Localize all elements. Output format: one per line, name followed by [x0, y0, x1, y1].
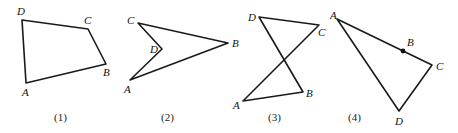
figure-4-label-b: B [407, 36, 414, 48]
figure-1-label-b: B [103, 66, 110, 78]
figure-4-label-c: C [436, 60, 444, 72]
figure-4-triangle [337, 19, 432, 111]
figure-3-label-a: A [232, 99, 240, 111]
figure-1: A B C D (1) [16, 5, 110, 124]
figure-4-caption: (4) [348, 111, 361, 124]
figure-2-label-a: A [123, 83, 131, 95]
figure-2-label-c: C [127, 14, 135, 26]
figure-3-label-b: B [306, 87, 313, 99]
figure-1-label-a: A [21, 86, 29, 98]
quadrilateral-figures-diagram: A B C D (1) A B C D (2) A B C D (3) [0, 0, 458, 133]
figure-3-label-d: D [247, 11, 256, 23]
figure-2: A B C D (2) [123, 14, 239, 124]
figure-4-label-a: A [329, 9, 337, 21]
figure-4-point-b [401, 49, 406, 54]
figure-1-caption: (1) [54, 111, 67, 124]
figure-1-quadrilateral [22, 20, 106, 83]
figure-2-caption: (2) [161, 111, 174, 124]
figures-canvas: A B C D (1) A B C D (2) A B C D (3) [0, 0, 458, 133]
figure-4: A B C D (4) [329, 9, 444, 127]
figure-3-label-c: C [318, 26, 326, 38]
figure-2-dart [130, 23, 228, 80]
figure-1-label-c: C [84, 14, 92, 26]
figure-3-caption: (3) [268, 111, 281, 124]
figure-1-label-d: D [16, 5, 25, 17]
figure-4-label-d: D [394, 115, 403, 127]
figure-2-label-b: B [232, 37, 239, 49]
figure-2-label-d: D [149, 43, 158, 55]
figure-3: A B C D (3) [232, 11, 326, 124]
